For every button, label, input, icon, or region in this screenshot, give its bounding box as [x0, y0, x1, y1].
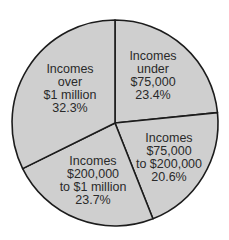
label-percent: 23.7%	[60, 194, 127, 207]
slice-label-over-1m: Incomes over $1 million 32.3%	[44, 63, 97, 115]
label-percent: 32.3%	[44, 102, 97, 115]
slice-label-200k-to-1m: Incomes $200,000 to $1 million 23.7%	[60, 155, 127, 207]
label-percent: 20.6%	[136, 171, 202, 184]
slice-label-75k-to-200k: Incomes $75,000 to $200,000 20.6%	[136, 132, 202, 184]
slice-label-under-75k: Incomes under $75,000 23.4%	[129, 50, 176, 102]
label-percent: 23.4%	[129, 89, 176, 102]
